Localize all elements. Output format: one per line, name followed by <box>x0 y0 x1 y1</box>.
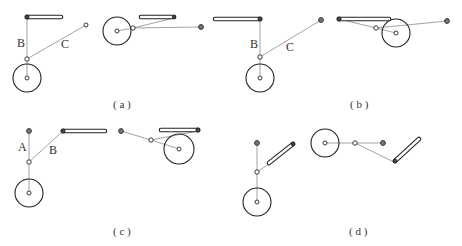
caption-c: ( c ) <box>113 225 131 238</box>
pivot-icon <box>337 17 341 21</box>
anchor-icon <box>199 25 204 30</box>
label-b: B <box>250 37 258 51</box>
label-c: C <box>61 37 69 51</box>
mechanism-diagram: B C B C <box>0 0 462 246</box>
pivot-icon <box>172 15 176 19</box>
wheel-hub <box>394 31 398 35</box>
anchor-icon <box>255 141 260 146</box>
pivot-icon <box>393 159 397 163</box>
panel-c-right-mechanism <box>119 128 201 164</box>
wheel-hub <box>323 141 327 145</box>
wheel-hub <box>177 147 181 151</box>
caption-a: ( a ) <box>113 98 131 111</box>
panel-d-left-mechanism <box>243 141 295 216</box>
joint <box>131 26 135 30</box>
wheel-hub <box>25 76 29 80</box>
panel-b-right-mechanism <box>337 17 450 47</box>
panel-c-left-mechanism: A B <box>15 129 105 207</box>
pivot-icon <box>196 128 200 132</box>
caption-b: ( b ) <box>350 98 369 111</box>
pivot-icon <box>61 129 65 133</box>
joint <box>149 138 153 142</box>
caption-d: ( d ) <box>349 225 368 238</box>
wheel-hub <box>258 76 262 80</box>
anchor-icon <box>119 129 124 134</box>
link-end <box>84 23 88 27</box>
joint <box>27 160 31 164</box>
joint <box>25 57 29 61</box>
link-c <box>27 25 86 59</box>
anchor-icon <box>27 129 32 134</box>
panel-d-right-mechanism <box>311 129 419 163</box>
anchor-icon <box>319 18 324 23</box>
label-c: C <box>286 40 294 54</box>
label-b: B <box>49 143 57 157</box>
label-b: B <box>17 36 25 50</box>
panel-b-left-mechanism: B C <box>215 17 323 92</box>
label-a: A <box>18 140 27 154</box>
anchor-icon <box>381 141 386 146</box>
anchor-icon <box>445 19 450 24</box>
joint <box>353 141 357 145</box>
joint <box>255 170 259 174</box>
wheel-hub <box>255 200 259 204</box>
panel-a-right-mechanism <box>103 15 203 45</box>
link-b <box>29 131 63 162</box>
wheel-hub <box>27 191 31 195</box>
joint <box>374 26 378 30</box>
wheel-hub <box>115 29 119 33</box>
panel-a-left-mechanism: B C <box>13 15 88 92</box>
pivot-icon <box>291 142 295 146</box>
pivot-icon <box>258 17 262 21</box>
pivot-icon <box>25 15 29 19</box>
joint <box>258 55 262 59</box>
